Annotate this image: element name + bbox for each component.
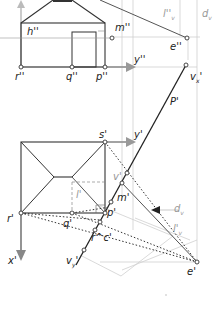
- label-m-top: m': [117, 192, 130, 203]
- label-q-top: q': [63, 218, 72, 229]
- label-p-front: p'': [95, 71, 108, 82]
- label-r-top: r': [7, 213, 14, 224]
- label-vx-top: vx': [190, 71, 202, 84]
- label-e-front: e'': [170, 41, 182, 52]
- diagram-canvas: h'' m'' e'' r'' q'' p'' y'' l''v dv: [0, 0, 213, 311]
- label-q-front: q'': [66, 71, 78, 82]
- label-v-mid: v': [113, 171, 122, 182]
- top-view: s' y' P' vx' v' m' p' r' q' l' r^c' vy' …: [7, 63, 202, 277]
- label-e-top: e': [187, 266, 196, 277]
- label-vy-top: vy': [66, 255, 78, 269]
- label-h-front: h'': [27, 26, 39, 37]
- label-l-front: l''v: [163, 8, 175, 21]
- label-y-front: y'': [133, 54, 145, 65]
- speck-mark: [165, 294, 167, 296]
- label-P-top: P': [170, 96, 179, 107]
- front-view: h'' m'' e'' r'' q'' p'' y'' l''v dv: [0, 0, 212, 82]
- label-p-top: p': [106, 207, 116, 218]
- label-y-top: y': [133, 129, 143, 140]
- label-x-top: x': [7, 255, 17, 266]
- label-r-front: r'': [15, 71, 25, 82]
- label-d-top: dv: [174, 203, 184, 216]
- label-d-front: dv: [202, 8, 212, 21]
- label-l-top: l': [76, 189, 82, 200]
- label-m-front: m'': [115, 22, 130, 33]
- label-s-top: s': [99, 129, 107, 140]
- label-rc-top: r^c': [91, 232, 112, 243]
